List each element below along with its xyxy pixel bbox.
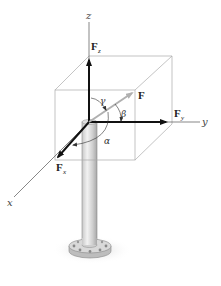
svg-text:z: z (97, 47, 101, 55)
fy-label: F y (174, 107, 185, 122)
svg-text:y: y (180, 114, 185, 122)
component-box (55, 56, 172, 160)
svg-text:x: x (62, 168, 67, 176)
svg-text:F: F (56, 161, 63, 173)
gamma-label: γ (100, 96, 106, 106)
fx-label: F x (56, 161, 67, 176)
x-axis-label: x (7, 197, 13, 208)
base-flange (69, 238, 111, 258)
svg-text:F: F (138, 89, 145, 101)
svg-text:F: F (91, 40, 98, 52)
force-components-diagram: z y x γ β α F z F F y F x (0, 0, 221, 286)
pole (82, 120, 97, 247)
svg-text:F: F (174, 107, 181, 119)
f-label: F (138, 89, 145, 101)
fz-label: F z (91, 40, 101, 55)
y-axis-label: y (201, 116, 208, 127)
beta-label: β (120, 109, 126, 119)
alpha-label: α (104, 136, 110, 146)
z-axis-label: z (85, 10, 92, 21)
